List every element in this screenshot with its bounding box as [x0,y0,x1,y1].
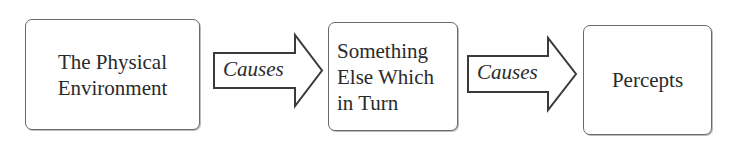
edge-label-causes-2: Causes [477,60,538,85]
node-label-line: Percepts [612,67,683,93]
node-percepts: Percepts [583,25,712,135]
node-label: Percepts [612,67,683,93]
